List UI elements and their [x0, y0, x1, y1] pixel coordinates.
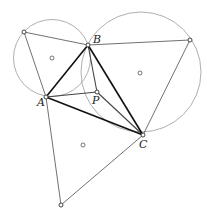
label-p: P	[91, 94, 100, 107]
label-c: C	[139, 138, 148, 151]
point-e-ab-marker	[22, 30, 26, 34]
point-c-marker	[141, 133, 145, 137]
point-e-ca-marker	[59, 203, 63, 207]
label-a: A	[36, 96, 45, 109]
segment-ap	[46, 92, 97, 97]
segment-b-e_bc	[88, 40, 190, 45]
segment-e_ca-a	[46, 97, 61, 205]
label-b: B	[92, 33, 101, 46]
geometry-diagram: A B C P	[0, 0, 207, 218]
segment-ab	[46, 45, 88, 97]
outer-equilateral-triangles	[24, 32, 190, 205]
segment-e_bc-c	[143, 40, 190, 135]
segment-c-e_ca	[61, 135, 143, 205]
point-b-marker	[86, 43, 90, 47]
fermat-point-segments	[46, 45, 143, 135]
vertex-points	[22, 30, 192, 207]
center-bce-marker	[138, 71, 142, 75]
center-abe-marker	[50, 56, 54, 60]
segment-e_ab-b	[24, 32, 88, 45]
center-cae-marker	[81, 143, 85, 147]
point-e-bc-marker	[188, 38, 192, 42]
